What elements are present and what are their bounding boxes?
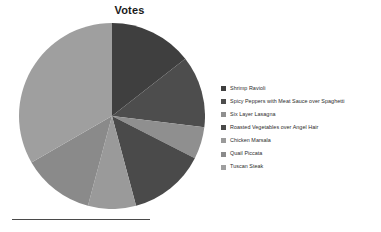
legend-item-label: Roasted Vegetables over Angel Hair xyxy=(230,125,318,130)
legend-item-label: Chicken Marsala xyxy=(230,138,271,143)
pie-plot-area xyxy=(19,23,205,209)
pie-chart-figure: Votes Shrimp RavioliSpicy Peppers with M… xyxy=(0,0,381,232)
legend-item-label: Six Layer Lasagna xyxy=(230,112,276,117)
chart-title: Votes xyxy=(0,4,381,16)
pie-slice-group xyxy=(19,23,205,209)
footer-rule xyxy=(12,219,150,220)
chart-legend: Shrimp RavioliSpicy Peppers with Meat Sa… xyxy=(221,82,379,174)
legend-swatch-icon xyxy=(221,165,226,170)
legend-item-label: Quail Piccata xyxy=(230,151,262,156)
legend-item-label: Tuscan Steak xyxy=(230,164,263,169)
legend-item-5[interactable]: Chicken Marsala xyxy=(221,134,379,147)
legend-item-3[interactable]: Six Layer Lasagna xyxy=(221,108,379,121)
legend-swatch-icon xyxy=(221,86,226,91)
legend-item-2[interactable]: Spicy Peppers with Meat Sauce over Spagh… xyxy=(221,95,379,108)
legend-item-7[interactable]: Tuscan Steak xyxy=(221,161,379,174)
legend-item-6[interactable]: Quail Piccata xyxy=(221,147,379,160)
legend-item-4[interactable]: Roasted Vegetables over Angel Hair xyxy=(221,121,379,134)
pie-svg xyxy=(19,23,205,209)
legend-swatch-icon xyxy=(221,112,226,117)
legend-item-label: Shrimp Ravioli xyxy=(230,86,265,91)
legend-swatch-icon xyxy=(221,125,226,130)
legend-item-1[interactable]: Shrimp Ravioli xyxy=(221,82,379,95)
legend-item-label: Spicy Peppers with Meat Sauce over Spagh… xyxy=(230,99,345,104)
legend-swatch-icon xyxy=(221,152,226,157)
legend-swatch-icon xyxy=(221,138,226,143)
legend-swatch-icon xyxy=(221,99,226,104)
